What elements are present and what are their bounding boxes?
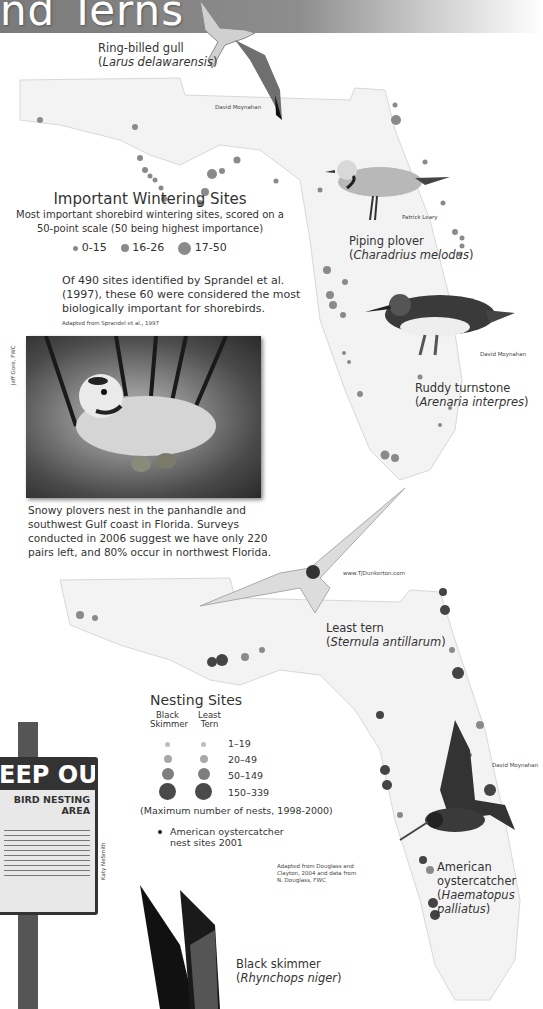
skimmer-name: Black skimmer: [236, 957, 342, 971]
snowy-plover-illustration: [26, 336, 261, 498]
gull-credit: David Moynahan: [215, 104, 261, 110]
snowy-plover-photo: [26, 336, 261, 498]
nesting-legend: Nesting Sites BlackSkimmer LeastTern 1–1…: [150, 692, 333, 848]
scale-item-small: 0-15: [73, 241, 106, 254]
col-least-tern: LeastTern: [197, 711, 222, 729]
scale-item-medium: 16-26: [121, 241, 164, 254]
turnstone-caption: Ruddy turnstone (Arenaria interpres): [415, 381, 529, 409]
nesting-title: Nesting Sites: [150, 692, 333, 708]
nesting-col-headers: BlackSkimmer LeastTern: [150, 711, 333, 729]
turnstone-latin: Arenaria interpres: [420, 395, 525, 409]
keep-out-sign: EEP OUT BIRD NESTING AREA: [0, 757, 98, 915]
wintering-subtitle-1: Most important shorebird wintering sites…: [0, 208, 300, 222]
plover-latin: Charadrius melodus: [354, 248, 469, 262]
gull-caption: Ring-billed gull (Larus delawarensis): [98, 41, 217, 69]
turnstone-name: Ruddy turnstone: [415, 381, 529, 395]
black-skimmer-image: [140, 885, 240, 1009]
nesting-row: 50–149: [150, 767, 333, 783]
nesting-source: Adapted from Douglass and Clayton, 2004 …: [277, 863, 356, 884]
american-oystercatcher-image: [395, 720, 525, 850]
oystercatcher-credit: David Moynahan: [492, 762, 538, 768]
plover-credit: Patrick Leary: [402, 214, 438, 220]
tern-credit: www.TJDunkerton.com: [343, 570, 405, 576]
bullet-dot-icon: [158, 830, 162, 834]
oystercatcher-legend: American oystercatcher nest sites 2001: [170, 826, 333, 848]
oystercatcher-caption: American oystercatcher (Haematopus palli…: [437, 860, 543, 916]
ruddy-turnstone-image: [365, 285, 525, 360]
wintering-note: Of 490 sites identified by Sprandel et a…: [62, 274, 300, 316]
sign-headline: EEP OUT: [0, 760, 95, 790]
gull-name: Ring-billed gull: [98, 41, 217, 55]
wintering-legend: Important Wintering Sites Most important…: [0, 190, 300, 255]
skimmer-caption: Black skimmer (Rhynchops niger): [236, 957, 342, 985]
nesting-row: 20–49: [150, 751, 333, 767]
sign-fine-print: [4, 826, 90, 876]
turnstone-credit: David Moynahan: [480, 351, 526, 357]
gull-latin: Larus delawarensis: [103, 55, 213, 69]
wintering-scale: 0-15 16-26 17-50: [0, 241, 300, 255]
plover-caption: Piping plover (Charadrius melodus): [349, 234, 473, 262]
wintering-source: Adapted from Sprandel et al., 1997: [62, 320, 159, 326]
scale-item-large: 17-50: [178, 241, 226, 255]
wintering-title: Important Wintering Sites: [0, 190, 300, 208]
tern-latin: Sternula antillarum: [331, 635, 442, 649]
sign-credit: Katy NeSmith: [100, 842, 106, 880]
nesting-row: 1–19: [150, 735, 333, 751]
oystercatcher-latin: Haematopus palliatus: [437, 888, 515, 916]
page-title: nd Terns: [0, 0, 184, 35]
nesting-rows: 1–19 20–49 50–149 150–339: [150, 735, 333, 801]
col-black-skimmer: BlackSkimmer: [150, 711, 185, 729]
snowy-plover-credit: Jeff Gore, FWC: [10, 345, 16, 385]
tern-name: Least tern: [326, 621, 446, 635]
nesting-note: (Maximum number of nests, 1998-2000): [140, 805, 333, 816]
oystercatcher-name: American oystercatcher: [437, 860, 543, 888]
wintering-subtitle-2: 50-point scale (50 being highest importa…: [0, 222, 300, 236]
plover-name: Piping plover: [349, 234, 473, 248]
tern-caption: Least tern (Sternula antillarum): [326, 621, 446, 649]
nesting-row: 150–339: [150, 783, 333, 801]
least-tern-image: [200, 488, 410, 618]
skimmer-latin: Rhynchops niger: [241, 971, 338, 985]
sign-subhead: BIRD NESTING AREA: [0, 794, 95, 816]
